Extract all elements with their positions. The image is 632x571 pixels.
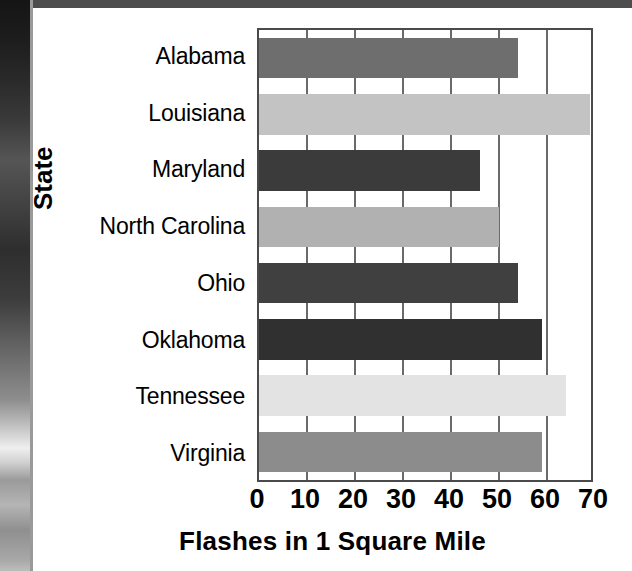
bar-maryland [259, 150, 480, 191]
y-tick-label: Tennessee [0, 369, 252, 426]
y-tick-label: Alabama [0, 28, 252, 85]
bar-series [259, 30, 591, 480]
bar-tennessee [259, 375, 566, 416]
plot-area [257, 28, 593, 482]
x-tick-label: 20 [338, 484, 368, 515]
bar-ohio [259, 263, 518, 304]
x-tick-label: 70 [578, 484, 608, 515]
bar-row [259, 143, 591, 199]
bar-louisiana [259, 94, 590, 135]
bar-row [259, 199, 591, 255]
bar-row [259, 255, 591, 311]
y-tick-label: Oklahoma [0, 312, 252, 369]
bar-alabama [259, 38, 518, 79]
bar-north-carolina [259, 207, 499, 248]
x-tick-label: 30 [386, 484, 416, 515]
bar-row [259, 30, 591, 86]
x-axis-tick-labels: 010203040506070 [257, 484, 593, 518]
y-axis-tick-labels: Alabama Louisiana Maryland North Carolin… [0, 28, 252, 482]
x-tick-label: 50 [482, 484, 512, 515]
x-axis-title: Flashes in 1 Square Mile [33, 526, 632, 557]
y-tick-label: Louisiana [0, 85, 252, 142]
y-tick-label: Ohio [0, 255, 252, 312]
bar-row [259, 424, 591, 480]
bar-chart-figure: State Alabama Louisiana Maryland North C… [0, 0, 632, 571]
bar-oklahoma [259, 319, 542, 360]
scan-top-band [0, 0, 632, 8]
bar-row [259, 311, 591, 367]
x-tick-label: 40 [434, 484, 464, 515]
x-tick-label: 10 [290, 484, 320, 515]
x-tick-label: 60 [530, 484, 560, 515]
x-tick-label: 0 [249, 484, 264, 515]
bar-row [259, 368, 591, 424]
y-tick-label: North Carolina [0, 198, 252, 255]
bar-row [259, 86, 591, 142]
bar-virginia [259, 432, 542, 473]
y-tick-label: Maryland [0, 142, 252, 199]
y-tick-label: Virginia [0, 425, 252, 482]
